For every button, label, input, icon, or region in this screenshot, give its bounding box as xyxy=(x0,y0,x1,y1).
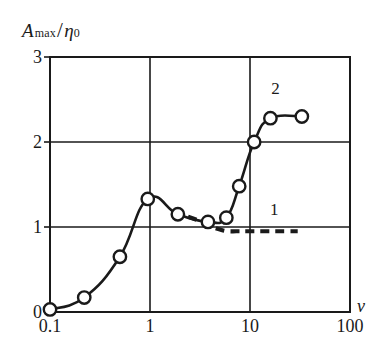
y-tick-label-3: 3 xyxy=(20,47,42,68)
plot-area xyxy=(0,0,384,361)
data-point-marker xyxy=(202,216,214,228)
data-point-marker xyxy=(264,112,276,124)
data-point-marker xyxy=(142,193,154,205)
data-point-marker xyxy=(114,251,126,263)
series-label-2: 2 xyxy=(271,79,280,99)
y-axis-label-subscript: max xyxy=(34,26,56,40)
x-axis-label: v xyxy=(357,296,365,317)
plot-frame xyxy=(50,57,350,312)
gridlines xyxy=(44,57,350,312)
series-label-1: 1 xyxy=(270,200,279,220)
series-markers-2 xyxy=(44,110,308,315)
x-tick-label-3: 100 xyxy=(337,316,364,337)
data-point-marker xyxy=(296,110,308,122)
y-axis-label: Amax/η0 xyxy=(22,18,80,43)
data-point-marker xyxy=(248,136,260,148)
data-point-marker xyxy=(220,211,232,223)
y-axis-label-eta-subscript: 0 xyxy=(74,26,80,40)
y-tick-label-2: 2 xyxy=(20,132,42,153)
x-tick-label-0: 0.1 xyxy=(39,316,62,337)
y-axis-label-slash: / xyxy=(56,18,64,42)
y-tick-label-1: 1 xyxy=(20,217,42,238)
x-tick-label-2: 10 xyxy=(241,316,259,337)
x-tick-label-1: 1 xyxy=(146,316,155,337)
data-point-marker xyxy=(44,303,56,315)
data-point-marker xyxy=(233,180,245,192)
chart-figure: Amax/η0 v 0 1 2 3 0.1 1 10 100 1 2 xyxy=(0,0,384,361)
data-point-marker xyxy=(172,208,184,220)
y-axis-label-eta: η xyxy=(64,20,74,41)
data-point-marker xyxy=(78,291,90,303)
y-axis-label-main: A xyxy=(22,20,34,41)
